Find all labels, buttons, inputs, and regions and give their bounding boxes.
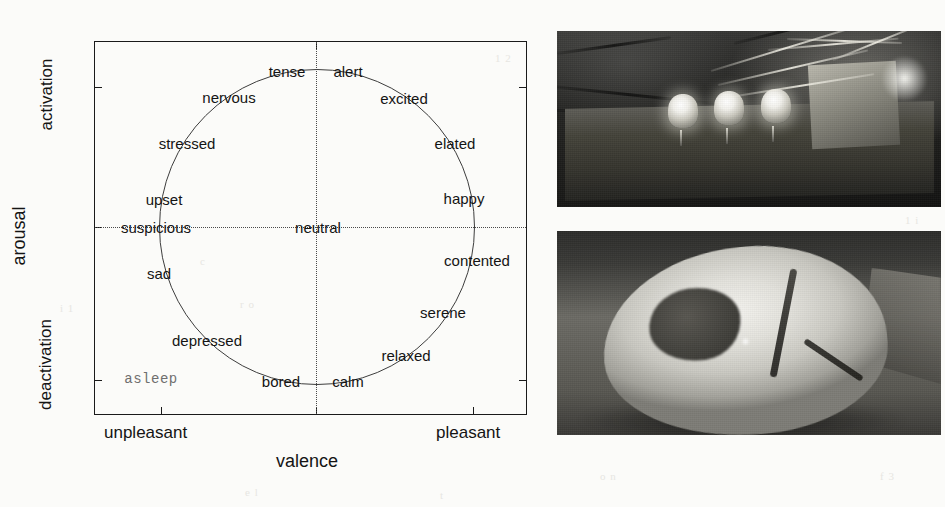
emotion-label-nervous: nervous xyxy=(202,90,255,105)
axis-label-deactivation: deactivation xyxy=(37,295,54,435)
tick-right-upper xyxy=(519,87,526,88)
tick-right-lower xyxy=(519,380,526,381)
emotion-label-contented: contented xyxy=(444,253,510,268)
emotion-label-bored: bored xyxy=(262,374,300,389)
axis-title-arousal: arousal xyxy=(10,191,28,281)
scan-artifact: f 3 xyxy=(880,470,895,482)
emotion-label-depressed: depressed xyxy=(172,333,242,348)
axis-label-pleasant: pleasant xyxy=(436,424,500,441)
emotion-label-calm: calm xyxy=(332,374,364,389)
circumplex-affect-chart: tense alert nervous excited stressed ela… xyxy=(0,0,552,507)
axis-label-activation: activation xyxy=(38,35,55,155)
figure-page: 1 2 i c 5 n 1 i c i 1 r o u o n f 3 e l … xyxy=(0,0,945,507)
emotion-label-asleep: asleep xyxy=(124,372,177,386)
emotion-label-sad: sad xyxy=(147,266,171,281)
scan-artifact: o n xyxy=(600,470,617,482)
emotion-label-neutral: neutral xyxy=(295,220,341,235)
photo-circuit-board xyxy=(557,31,941,207)
emotion-label-stressed: stressed xyxy=(159,136,216,151)
tick-left-upper xyxy=(95,87,102,88)
axis-label-unpleasant: unpleasant xyxy=(104,424,187,441)
axis-title-valence: valence xyxy=(276,452,338,470)
emotion-label-upset: upset xyxy=(146,192,183,207)
emotion-label-suspicious: suspicious xyxy=(121,220,191,235)
photo-dome-device xyxy=(557,231,941,435)
tick-bottom-right xyxy=(473,407,474,414)
tick-bottom-left xyxy=(161,407,162,414)
emotion-label-relaxed: relaxed xyxy=(381,348,430,363)
tick-left-lower xyxy=(95,380,102,381)
emotion-label-excited: excited xyxy=(380,91,428,106)
emotion-label-alert: alert xyxy=(333,64,362,79)
scan-artifact: 1 i xyxy=(905,214,919,226)
emotion-label-serene: serene xyxy=(420,305,466,320)
emotion-label-tense: tense xyxy=(269,64,306,79)
emotion-label-elated: elated xyxy=(435,136,476,151)
emotion-label-happy: happy xyxy=(444,191,485,206)
